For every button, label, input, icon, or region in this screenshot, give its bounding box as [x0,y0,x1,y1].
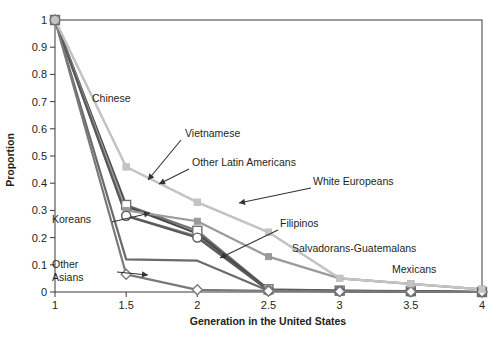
x-tick-label: 2.5 [261,299,276,311]
data-point-marker [52,17,58,23]
data-point-marker [266,254,272,260]
data-point-marker [479,286,485,292]
series-label: Filipinos [280,217,319,229]
data-point-marker [408,281,414,287]
series-label: Vietnamese [185,127,240,139]
annotation-arrow-head [239,199,246,205]
annotation-leader-line [148,140,181,180]
line-chart: 00.10.20.30.40.50.60.70.80.91 11.522.533… [0,0,501,337]
y-tick-label: 1 [41,14,47,26]
data-point-marker [194,218,200,224]
annotation-leader-line [239,188,311,203]
y-tick-label: 0.1 [32,259,47,271]
y-tick-label: 0.7 [32,96,47,108]
series-label: Koreans [52,213,91,225]
series-label: Mexicans [392,263,436,275]
x-tick-label: 1 [52,299,58,311]
y-tick-label: 0.6 [32,123,47,135]
y-axis-ticks: 00.10.20.30.40.50.60.70.80.91 [32,14,55,298]
x-tick-label: 2 [194,299,200,311]
y-tick-label: 0.4 [32,177,47,189]
series-annotations: ChineseVietnameseOther Latin AmericansWh… [52,92,436,283]
series-label: White Europeans [313,175,394,187]
data-point-marker [123,164,129,170]
data-point-marker [192,285,202,295]
series-label: Salvadorans-Guatemalans [292,242,416,254]
y-tick-label: 0.3 [32,204,47,216]
series-label: Other Latin Americans [192,156,296,168]
data-point-marker [193,233,202,242]
series-label: Chinese [92,92,131,104]
y-tick-label: 0.9 [32,41,47,53]
series-label: OtherAsians [52,258,84,283]
data-point-marker [194,199,200,205]
y-tick-label: 0.8 [32,68,47,80]
annotation-arrow-head [142,271,148,277]
y-tick-label: 0 [41,286,47,298]
x-tick-label: 1.5 [119,299,134,311]
y-axis-title: Proportion [4,133,16,187]
x-tick-label: 3.5 [403,299,418,311]
data-point-marker [337,275,343,281]
chart-container: 00.10.20.30.40.50.60.70.80.91 11.522.533… [0,0,501,337]
x-tick-label: 3 [337,299,343,311]
y-tick-label: 0.2 [32,232,47,244]
data-point-marker [121,269,131,279]
x-tick-label: 4 [479,299,485,311]
y-tick-label: 0.5 [32,150,47,162]
x-axis-title: Generation in the United States [190,315,347,327]
